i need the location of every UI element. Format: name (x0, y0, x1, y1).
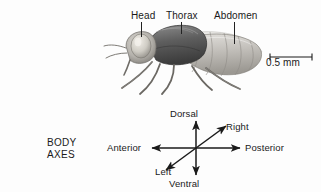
fly-thorax (148, 25, 207, 64)
axis-label-ventral: Ventral (169, 178, 199, 189)
label-abdomen: Abdomen (214, 10, 258, 21)
leader-line-abdomen (234, 22, 235, 44)
body-axes-title-line1: BODY (47, 137, 77, 149)
body-axes-title-line2: AXES (47, 149, 77, 161)
axis-label-right: Right (226, 121, 249, 132)
drosophila-body-axes-figure: Head Thorax Abdomen 0.5 mm BODY AXES (0, 0, 321, 192)
label-head: Head (131, 10, 155, 21)
body-axes-title: BODY AXES (47, 137, 77, 160)
leader-line-head (141, 22, 142, 37)
scale-bar-label: 0.5 mm (266, 57, 300, 68)
axis-label-posterior: Posterior (245, 142, 284, 153)
axis-arrow-right (196, 126, 226, 148)
scale-bar: 0.5 mm (266, 48, 316, 70)
fly-head (104, 32, 156, 75)
leader-line-thorax (181, 22, 182, 34)
axis-label-left: Left (155, 166, 171, 177)
axis-label-dorsal: Dorsal (170, 108, 198, 119)
label-thorax: Thorax (166, 10, 198, 21)
fly-illustration (100, 18, 272, 102)
axis-label-anterior: Anterior (107, 142, 141, 153)
